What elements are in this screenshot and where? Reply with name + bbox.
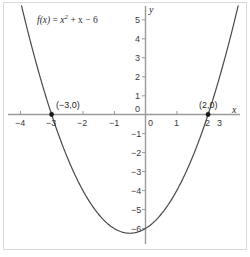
y-tick-label--1: −1 bbox=[131, 129, 141, 139]
x-tick-label-0: 0 bbox=[148, 118, 153, 128]
fn-rest: + x − 6 bbox=[68, 15, 98, 25]
point-label-left-root: (−3,0) bbox=[56, 100, 80, 110]
y-tick-label-2: 2 bbox=[135, 72, 140, 82]
graph-figure: f(x) = x2 + x − 6 −4 −3 −2 −1 0 1 2 3 5 … bbox=[0, 0, 250, 257]
y-tick-label--2: −2 bbox=[131, 148, 141, 158]
x-tick-label--4: −4 bbox=[15, 118, 25, 128]
y-tick-label-3: 3 bbox=[135, 53, 140, 63]
y-tick-marks bbox=[142, 20, 145, 229]
x-tick-label-3: 3 bbox=[217, 118, 222, 128]
x-axis-label: x bbox=[232, 104, 236, 115]
x-tick-label--1: −1 bbox=[109, 118, 119, 128]
x-tick-marks bbox=[21, 111, 209, 114]
x-tick-label--3: −3 bbox=[46, 118, 56, 128]
y-tick-label-4: 4 bbox=[135, 34, 140, 44]
root-point-right bbox=[206, 112, 211, 117]
y-tick-label--5: −5 bbox=[131, 205, 141, 215]
fn-equals: = bbox=[50, 15, 60, 25]
y-tick-label-5: 5 bbox=[135, 15, 140, 25]
y-tick-label--3: −3 bbox=[131, 167, 141, 177]
y-tick-label-1: 1 bbox=[135, 91, 140, 101]
y-axis-label: y bbox=[149, 4, 153, 15]
y-tick-label--6: −6 bbox=[131, 224, 141, 234]
function-equation-label: f(x) = x2 + x − 6 bbox=[37, 13, 98, 25]
point-label-right-root: (2,0) bbox=[199, 100, 218, 110]
y-tick-label--4: −4 bbox=[131, 186, 141, 196]
root-point-left bbox=[49, 112, 54, 117]
plot-canvas bbox=[0, 0, 250, 257]
x-tick-label--2: −2 bbox=[77, 118, 87, 128]
fn-arg: (x) bbox=[40, 15, 51, 25]
x-tick-label-2: 2 bbox=[205, 118, 210, 128]
y-tick-label-0: 0 bbox=[135, 104, 140, 114]
x-tick-label-1: 1 bbox=[174, 118, 179, 128]
